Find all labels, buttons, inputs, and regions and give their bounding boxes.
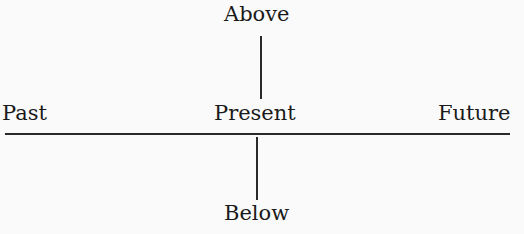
horizontal-axis-line <box>5 133 510 135</box>
label-past: Past <box>2 103 47 124</box>
vertical-line-upper <box>260 36 262 99</box>
label-future: Future <box>438 103 511 124</box>
label-below: Below <box>224 203 289 224</box>
label-present: Present <box>214 103 296 124</box>
label-above: Above <box>224 4 290 25</box>
vertical-line-lower <box>256 137 258 200</box>
